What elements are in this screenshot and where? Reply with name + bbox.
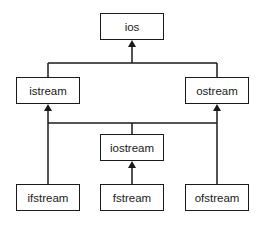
node-label: fstream (113, 192, 151, 204)
node-label: ifstream (28, 192, 69, 204)
node-ios: ios (100, 13, 164, 40)
arrowhead-icon (213, 104, 221, 111)
arrowhead-icon (128, 40, 136, 47)
node-ostream: ostream (185, 77, 249, 104)
node-iostream: iostream (100, 134, 164, 161)
node-label: ofstream (195, 192, 240, 204)
node-ifstream: ifstream (16, 184, 80, 211)
node-label: iostream (110, 142, 154, 154)
node-ofstream: ofstream (185, 184, 249, 211)
node-label: istream (29, 85, 67, 97)
node-istream: istream (16, 77, 80, 104)
node-label: ios (125, 21, 140, 33)
node-label: ostream (196, 85, 238, 97)
arrowhead-icon (44, 104, 52, 111)
arrowhead-icon (128, 161, 136, 168)
node-fstream: fstream (100, 184, 164, 211)
